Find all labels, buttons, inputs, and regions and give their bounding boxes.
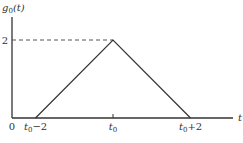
x-axis-label: t (238, 112, 243, 123)
x-tick-label: t0 (109, 121, 118, 134)
y-axis-label: g0(t) (2, 2, 25, 15)
x-tick-label: t0+2 (179, 121, 202, 134)
y-tick-label: 2 (2, 35, 8, 46)
origin-label: 0 (9, 121, 15, 132)
series-line (36, 40, 191, 118)
caption-cropped (18, 138, 228, 143)
chart: t0−2t0t0+220tg0(t) (0, 0, 243, 143)
x-tick-label: t0−2 (24, 121, 47, 134)
